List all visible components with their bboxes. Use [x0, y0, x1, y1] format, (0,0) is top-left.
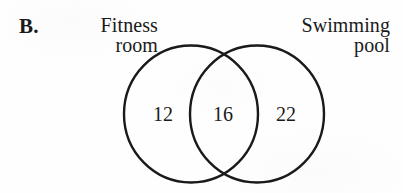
- right-only-count: 22: [276, 104, 296, 124]
- venn-figure: B. Fitness room Swimming pool 12 16 22: [0, 0, 403, 193]
- left-only-count: 12: [153, 104, 173, 124]
- left-set-label: Fitness room: [101, 15, 158, 56]
- right-set-label: Swimming pool: [301, 15, 390, 56]
- panel-label: B.: [19, 16, 39, 37]
- intersection-count: 16: [213, 104, 233, 124]
